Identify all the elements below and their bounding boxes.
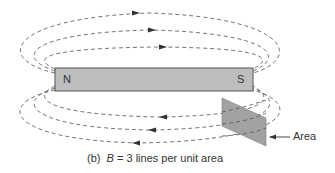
- caption-text: = 3 lines per unit area: [117, 152, 223, 164]
- arrow-left-icon: [132, 141, 140, 146]
- magnetic-field-diagram: [0, 0, 335, 173]
- caption-symbol: B: [107, 152, 114, 164]
- area-pointer-arrow-icon: [269, 135, 276, 140]
- arrow-left-icon: [148, 128, 156, 133]
- north-pole-label: N: [63, 73, 71, 85]
- caption-panel: (b): [87, 152, 100, 164]
- area-label: Area: [293, 130, 316, 142]
- arrow-right-icon: [148, 28, 156, 33]
- south-pole-label: S: [237, 73, 244, 85]
- bar-magnet: [55, 68, 253, 91]
- field-line-top-outer: [20, 13, 279, 73]
- figure-caption: (b) B = 3 lines per unit area: [87, 152, 223, 164]
- field-line-top-inner: [45, 47, 263, 69]
- arrow-left-icon: [159, 115, 167, 120]
- arrow-right-icon: [132, 11, 140, 16]
- area-plate: [222, 98, 266, 146]
- field-lines-top: [20, 13, 279, 73]
- arrow-right-icon: [159, 45, 167, 50]
